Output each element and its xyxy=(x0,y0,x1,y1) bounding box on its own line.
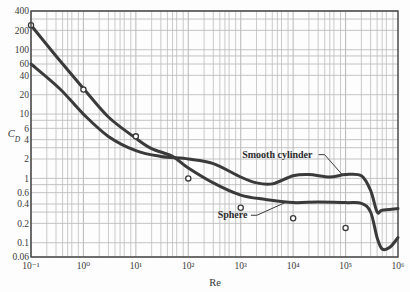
x-tick-label: 10³ xyxy=(235,261,248,271)
data-point-marker xyxy=(133,134,138,139)
y-tick-label: 200 xyxy=(15,26,30,36)
x-tick-label: 10⁶ xyxy=(392,261,405,271)
data-point-marker xyxy=(81,87,86,92)
annotation-leader-line xyxy=(319,155,344,176)
y-tick-label: 60 xyxy=(20,59,30,69)
y-tick-label: 40 xyxy=(20,71,30,81)
x-tick-label: 10¹ xyxy=(130,261,143,271)
y-tick-label: 0.1 xyxy=(17,238,29,248)
y-tick-label: 1 xyxy=(24,174,29,184)
x-tick-label: 10² xyxy=(182,261,195,271)
y-tick-label: 0.6 xyxy=(17,188,29,198)
plot-area: Smooth cylinderSphere 400200100604020106… xyxy=(0,0,410,292)
data-point-marker xyxy=(186,176,191,181)
x-tick-label: 10⁵ xyxy=(339,261,352,271)
y-tick-label: 0.2 xyxy=(17,219,29,229)
y-tick-label: 400 xyxy=(15,6,30,16)
annotation-sphere: Sphere xyxy=(218,209,248,220)
y-tick-label: 20 xyxy=(20,90,30,100)
data-point-marker xyxy=(291,216,296,221)
data-series xyxy=(31,25,398,249)
x-tick-label: 10⁴ xyxy=(287,261,301,271)
x-axis-label: Re xyxy=(209,277,221,288)
y-tick-label: 10 xyxy=(20,109,30,119)
y-tick-label: 0.4 xyxy=(17,199,29,209)
y-axis-label: CD xyxy=(8,128,21,144)
y-axis-label-subscript: D xyxy=(14,135,21,144)
x-tick-label: 10⁰ xyxy=(77,261,91,271)
plot-frame xyxy=(31,11,398,257)
data-point-marker xyxy=(343,225,348,230)
y-tick-label: 100 xyxy=(15,45,30,55)
x-tick-label: 10⁻¹ xyxy=(22,261,40,271)
series-sphere xyxy=(31,25,398,249)
y-tick-label: 2 xyxy=(24,154,29,164)
series-smooth-cylinder xyxy=(31,64,398,213)
y-tick-label: 6 xyxy=(24,124,29,134)
annotation-leader-line xyxy=(251,203,285,216)
grid-lines xyxy=(31,11,398,257)
drag-coefficient-chart: Smooth cylinderSphere 400200100604020106… xyxy=(0,0,410,292)
y-tick-label: 4 xyxy=(24,135,29,145)
x-axis-tick-labels: 10⁻¹10⁰10¹10²10³10⁴10⁵10⁶ xyxy=(22,261,404,271)
annotation-smooth-cylinder: Smooth cylinder xyxy=(242,149,313,160)
